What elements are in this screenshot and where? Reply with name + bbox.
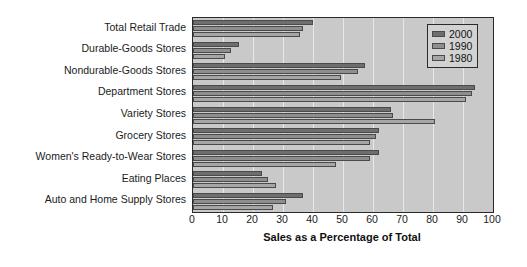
x-tick-label: 20 <box>246 213 258 225</box>
category-label: Total Retail Trade <box>104 22 186 33</box>
bar-1990 <box>193 199 286 204</box>
bar-group <box>193 150 493 167</box>
category-label: Department Stores <box>98 86 186 97</box>
category-label: Durable-Goods Stores <box>82 43 186 54</box>
bar-1980 <box>193 75 341 80</box>
legend-label-2000: 2000 <box>449 28 472 40</box>
x-tick-label: 80 <box>426 213 438 225</box>
bar-1980 <box>193 183 276 188</box>
legend-label-1990: 1990 <box>449 40 472 52</box>
x-tick-label: 60 <box>366 213 378 225</box>
bar-1990 <box>193 48 231 53</box>
category-label: Grocery Stores <box>115 130 186 141</box>
bar-group <box>193 107 493 124</box>
x-axis-title: Sales as a Percentage of Total <box>192 231 492 243</box>
bar-2000 <box>193 128 379 133</box>
x-tick-label: 70 <box>396 213 408 225</box>
bar-group <box>193 128 493 145</box>
category-label: Auto and Home Supply Stores <box>45 194 186 205</box>
x-tick-label: 10 <box>216 213 228 225</box>
bar-1990 <box>193 69 358 74</box>
category-label: Women's Ready-to-Wear Stores <box>36 151 186 162</box>
x-tick-label: 50 <box>336 213 348 225</box>
x-tick-label: 100 <box>483 213 501 225</box>
category-axis-labels: Total Retail TradeDurable-Goods StoresNo… <box>0 17 186 211</box>
category-label: Eating Places <box>122 173 186 184</box>
bar-group <box>193 85 493 102</box>
legend-swatch-1980-icon <box>432 55 445 61</box>
bar-1990 <box>193 177 268 182</box>
chart-legend: 2000 1990 1980 <box>427 24 478 68</box>
legend-entry: 1980 <box>432 52 472 64</box>
x-tick-label: 90 <box>456 213 468 225</box>
bar-2000 <box>193 85 475 90</box>
x-tick-label: 30 <box>276 213 288 225</box>
x-tick-label: 40 <box>306 213 318 225</box>
x-tick-label: 0 <box>189 213 195 225</box>
legend-entry: 1990 <box>432 40 472 52</box>
bar-1980 <box>193 54 225 59</box>
bar-1990 <box>193 113 393 118</box>
bar-2000 <box>193 171 262 176</box>
bar-1980 <box>193 162 336 167</box>
legend-entry: 2000 <box>432 28 472 40</box>
legend-label-1980: 1980 <box>449 52 472 64</box>
bar-1980 <box>193 119 435 124</box>
category-label: Variety Stores <box>121 108 186 119</box>
category-label: Nondurable-Goods Stores <box>64 65 186 76</box>
bar-group <box>193 193 493 210</box>
bar-2000 <box>193 63 365 68</box>
bar-1990 <box>193 26 303 31</box>
bar-2000 <box>193 193 303 198</box>
bar-1980 <box>193 97 466 102</box>
bar-1990 <box>193 134 376 139</box>
bar-2000 <box>193 107 391 112</box>
legend-swatch-1990-icon <box>432 43 445 49</box>
x-axis-tick-labels: 0102030405060708090100 <box>192 213 492 229</box>
bar-2000 <box>193 42 239 47</box>
bar-group <box>193 171 493 188</box>
bar-chart-figure: Total Retail TradeDurable-Goods StoresNo… <box>0 0 527 267</box>
legend-swatch-2000-icon <box>432 31 445 37</box>
bar-2000 <box>193 20 313 25</box>
bar-1980 <box>193 205 273 210</box>
bar-1980 <box>193 140 370 145</box>
bar-1990 <box>193 91 472 96</box>
bar-1990 <box>193 156 370 161</box>
bar-1980 <box>193 32 300 37</box>
bar-2000 <box>193 150 379 155</box>
